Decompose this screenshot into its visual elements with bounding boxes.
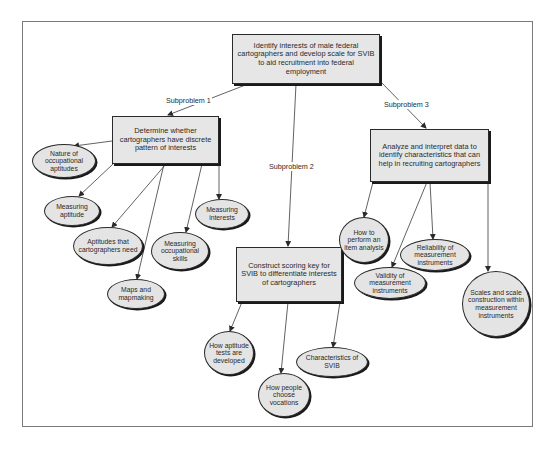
subproblem-3-node: Analyze and interpret data to identify c… bbox=[370, 129, 489, 182]
root-problem-node: Identify interests of male federal carto… bbox=[232, 34, 380, 84]
topic-aptitudes-that-cartographers-need: Aptitudes that cartographers need bbox=[73, 227, 143, 265]
topic-how-people-choose-vocations: How people choose vocations bbox=[258, 373, 310, 417]
edge-label-subproblem-1: Subproblem 1 bbox=[165, 96, 212, 105]
topic-nature-of-occupational-aptitudes: Nature of occupational aptitudes bbox=[32, 144, 96, 178]
topic-validity-of-measurement-instruments: Validity of measurement instruments bbox=[354, 267, 426, 299]
topic-characteristics-of-svib: Characteristics of SVIB bbox=[296, 347, 368, 377]
subproblem-1-node: Determine whether cartographers have dis… bbox=[112, 116, 219, 164]
edge-label-subproblem-3: Subproblem 3 bbox=[383, 100, 430, 109]
topic-scales-and-scale-construction: Scales and scale construction within mea… bbox=[462, 271, 530, 337]
subproblem-2-node: Construct scoring key for SVIB to differ… bbox=[236, 247, 342, 302]
topic-measuring-interests: Measuring interests bbox=[195, 199, 249, 229]
topic-how-aptitude-tests-are-developed: How aptitude tests are developed bbox=[204, 331, 254, 375]
topic-reliability-of-measurement-instruments: Reliability of measurement instruments bbox=[400, 239, 470, 271]
topic-measuring-aptitude: Measuring aptitude bbox=[44, 196, 100, 226]
topic-how-to-perform-an-item-analysis: How to perform an item analysis bbox=[339, 217, 389, 263]
topic-maps-and-mapmaking: Maps and mapmaking bbox=[107, 279, 165, 309]
topic-measuring-occupational-skills: Measuring occupational skills bbox=[151, 232, 209, 270]
edge-label-subproblem-2: Subproblem 2 bbox=[268, 162, 315, 171]
